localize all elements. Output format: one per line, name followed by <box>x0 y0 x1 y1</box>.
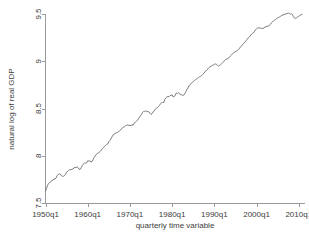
x-tick-label: 1980q1 <box>159 210 186 219</box>
x-tick-label: 1950q1 <box>32 210 59 219</box>
x-tick-label: 1990q1 <box>201 210 228 219</box>
y-tick-label: 8 <box>34 153 43 158</box>
x-tick-label: 1960q1 <box>74 210 101 219</box>
y-axis-title: natural log of real GDP <box>7 68 16 149</box>
y-tick-label: 8.5 <box>34 102 43 114</box>
y-tick-label: 7.5 <box>34 197 43 209</box>
x-tick-label: 2010q1 <box>285 210 309 219</box>
line-chart: 7.588.599.5 natural log of real GDP 1950… <box>0 0 309 243</box>
y-tick-label: 9.5 <box>34 8 43 20</box>
y-tick-label: 9 <box>34 58 43 63</box>
x-tick-label: 1970q1 <box>117 210 144 219</box>
chart-container: 7.588.599.5 natural log of real GDP 1950… <box>0 0 309 243</box>
x-axis-title: quarterly time variable <box>136 221 215 230</box>
x-tick-label: 2000q1 <box>243 210 270 219</box>
